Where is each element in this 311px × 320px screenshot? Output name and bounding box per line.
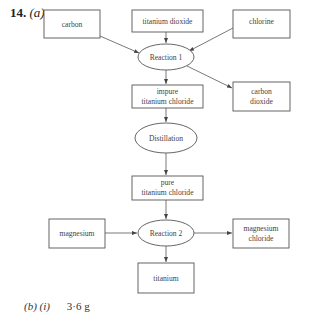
- node-distillation: Distillation: [135, 123, 197, 153]
- edge-carbon-reaction1: [100, 36, 139, 53]
- node-magnesium: magnesium: [49, 219, 105, 248]
- node-pure-label-line2: titanium chloride: [141, 188, 194, 197]
- node-carbon-dioxide-line2: dioxide: [250, 97, 273, 106]
- node-distillation-label: Distillation: [149, 134, 183, 143]
- node-magnesium-chloride: magnesium chloride: [233, 219, 289, 248]
- node-pure-label-line1: pure: [161, 178, 175, 187]
- node-chlorine: chlorine: [233, 10, 290, 38]
- node-chlorine-label: chlorine: [249, 17, 275, 26]
- node-titanium-label: titanium: [153, 274, 178, 283]
- node-impure-label-line2: titanium chloride: [141, 97, 194, 106]
- answer-subpart: (i): [40, 300, 50, 312]
- node-mgcl2-line2: chloride: [249, 234, 275, 243]
- node-reaction-1: Reaction 1: [138, 44, 194, 70]
- node-mgcl2-line1: magnesium: [243, 224, 278, 233]
- node-magnesium-label: magnesium: [59, 229, 94, 238]
- node-carbon: carbon: [44, 10, 100, 38]
- node-impure-label-line1: impure: [157, 87, 179, 96]
- answer-part: (b): [24, 300, 37, 312]
- answer-value: 3·6 g: [67, 300, 90, 312]
- node-carbon-dioxide-line1: carbon: [251, 87, 272, 96]
- node-titanium-dioxide: titanium dioxide: [132, 10, 203, 32]
- node-titanium-dioxide-label: titanium dioxide: [143, 17, 194, 26]
- node-carbon-label: carbon: [62, 20, 83, 29]
- node-titanium: titanium: [138, 263, 194, 293]
- node-pure-titanium-chloride: pure titanium chloride: [132, 176, 203, 200]
- node-reaction-2: Reaction 2: [138, 220, 194, 246]
- answer-line: (b) (i) 3·6 g: [24, 300, 90, 312]
- node-reaction-1-label: Reaction 1: [150, 53, 183, 62]
- node-carbon-dioxide: carbon dioxide: [233, 82, 290, 111]
- flow-diagram: carbon titanium dioxide chlorine Reactio…: [0, 0, 311, 320]
- node-reaction-2-label: Reaction 2: [150, 229, 183, 238]
- node-impure-titanium-chloride: impure titanium chloride: [132, 85, 203, 108]
